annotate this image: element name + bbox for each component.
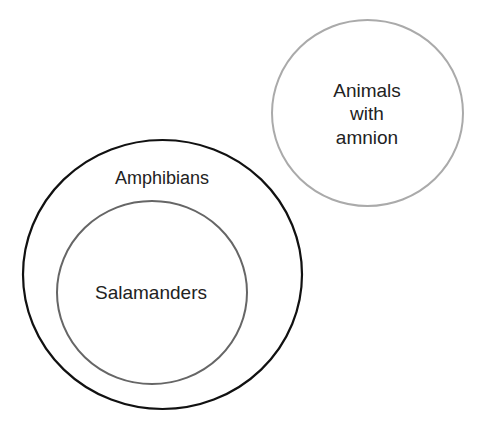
amnion-label-line-1: Animals: [333, 80, 401, 101]
salamanders-label: Salamanders: [95, 282, 207, 303]
amnion-label-line-3: amnion: [336, 127, 398, 148]
euler-diagram: Amphibians Salamanders Animals with amni…: [0, 0, 490, 428]
amnion-label-line-2: with: [349, 103, 384, 124]
amphibians-label: Amphibians: [115, 168, 209, 188]
